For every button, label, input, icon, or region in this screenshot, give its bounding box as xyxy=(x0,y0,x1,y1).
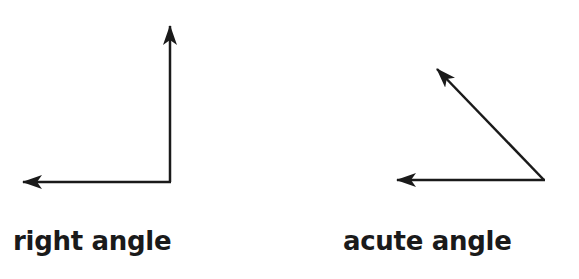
right-angle-label: right angle xyxy=(13,226,171,256)
acute-angle-label: acute angle xyxy=(343,226,512,256)
acute-angle-diagonal-ray xyxy=(437,69,544,180)
acute-angle-figure xyxy=(397,69,545,180)
right-angle-figure xyxy=(23,26,171,182)
